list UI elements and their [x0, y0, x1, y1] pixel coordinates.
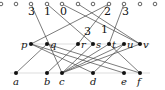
edge	[62, 44, 93, 73]
node-label: f	[136, 76, 143, 87]
node-f	[138, 71, 142, 75]
top-numbers: 3102331	[28, 5, 129, 38]
top-node	[0, 2, 3, 6]
edge-count-label: 2	[104, 5, 111, 18]
edge-count-label: 1	[44, 5, 51, 18]
node-e	[122, 71, 126, 75]
node-label: e	[121, 76, 127, 87]
node-label: p	[21, 39, 28, 50]
node-q	[45, 42, 49, 46]
node-t	[107, 42, 111, 46]
edge-count-label: 3	[84, 25, 91, 38]
top-node	[153, 2, 157, 6]
top-node	[14, 2, 18, 6]
node-r	[76, 42, 80, 46]
edge-count-label: 3	[122, 5, 129, 18]
node-label: u	[127, 39, 133, 50]
node-b	[45, 71, 49, 75]
node-label: s	[96, 39, 101, 50]
node-u	[122, 42, 126, 46]
node-c	[60, 71, 64, 75]
node-s	[91, 42, 95, 46]
node-label: v	[143, 39, 149, 50]
node-label: b	[44, 76, 50, 87]
top-node	[138, 2, 142, 6]
node-d	[91, 71, 95, 75]
top-nodes	[0, 2, 157, 6]
edge-count-label: 1	[101, 23, 108, 36]
node-label: d	[90, 76, 96, 87]
edge-count-label: 0	[60, 5, 67, 18]
graph-diagram: 3102331 pqrstuv abcdef	[0, 0, 165, 90]
node-label: q	[50, 39, 56, 50]
node-v	[138, 42, 142, 46]
node-a	[14, 71, 18, 75]
top-node	[91, 2, 95, 6]
node-label: c	[59, 76, 65, 87]
node-p	[29, 42, 33, 46]
node-label: a	[13, 76, 19, 87]
edge-count-label: 3	[28, 5, 35, 18]
top-node	[76, 2, 80, 6]
